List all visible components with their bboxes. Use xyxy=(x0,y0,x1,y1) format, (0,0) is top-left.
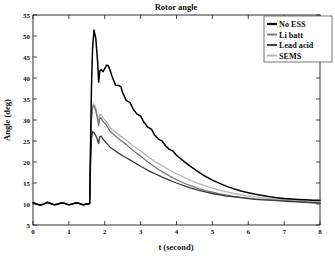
legend-label-no-ess[interactable]: No ESS xyxy=(279,20,306,29)
x-tick-label: 8 xyxy=(318,228,322,236)
y-tick-label: 30 xyxy=(23,117,31,125)
x-tick-label: 3 xyxy=(139,228,143,236)
y-tick-label: 45 xyxy=(23,54,31,62)
y-tick-label: 50 xyxy=(23,33,31,41)
x-axis-label: t (second) xyxy=(158,242,193,252)
x-tick-label: 7 xyxy=(282,228,286,236)
x-tick-label: 1 xyxy=(67,228,71,236)
figure-container: Rotor angle 012345678 510152025303540455… xyxy=(0,0,335,257)
legend-label-li-batt[interactable]: Li batt xyxy=(279,31,303,40)
y-tick-label: 55 xyxy=(23,12,31,20)
legend-label-sems[interactable]: SEMS xyxy=(279,52,302,61)
y-tick-label: 20 xyxy=(23,159,31,167)
x-tick-label: 4 xyxy=(175,228,179,236)
y-tick-label: 25 xyxy=(23,138,31,146)
chart-legend[interactable]: No ESSLi battLead acidSEMS xyxy=(264,16,332,62)
y-tick-label: 5 xyxy=(27,222,31,230)
x-tick-label: 6 xyxy=(247,228,251,236)
x-tick-label: 5 xyxy=(211,228,215,236)
rotor-angle-chart: Rotor angle 012345678 510152025303540455… xyxy=(0,0,335,257)
x-tick-label: 2 xyxy=(103,228,107,236)
x-tick-label: 0 xyxy=(31,228,35,236)
y-tick-label: 35 xyxy=(23,96,31,104)
y-tick-label: 10 xyxy=(23,201,31,209)
y-axis-label: Angle (deg) xyxy=(2,99,12,141)
chart-title: Rotor angle xyxy=(155,2,198,12)
y-tick-label: 15 xyxy=(23,180,31,188)
legend-label-lead-acid[interactable]: Lead acid xyxy=(279,41,314,50)
y-tick-label: 40 xyxy=(23,75,31,83)
